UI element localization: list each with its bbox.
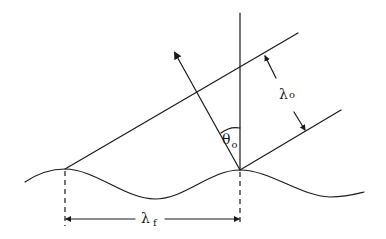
propagation-arrow: [175, 53, 240, 170]
incident-wavefront-upper: [65, 33, 298, 169]
sinusoidal-surface: [25, 169, 364, 199]
lambda-o-label: λo: [279, 86, 295, 102]
lambda-f-label: λf: [141, 210, 158, 228]
wavelength-dimension-lambda-o-upper: [265, 56, 276, 78]
wave-diagram: θo λo λf: [0, 0, 386, 239]
theta-o-label: θo: [222, 131, 237, 150]
wavelength-dimension-lambda-o-lower: [294, 112, 305, 130]
incident-wavefront-lower: [240, 110, 341, 170]
